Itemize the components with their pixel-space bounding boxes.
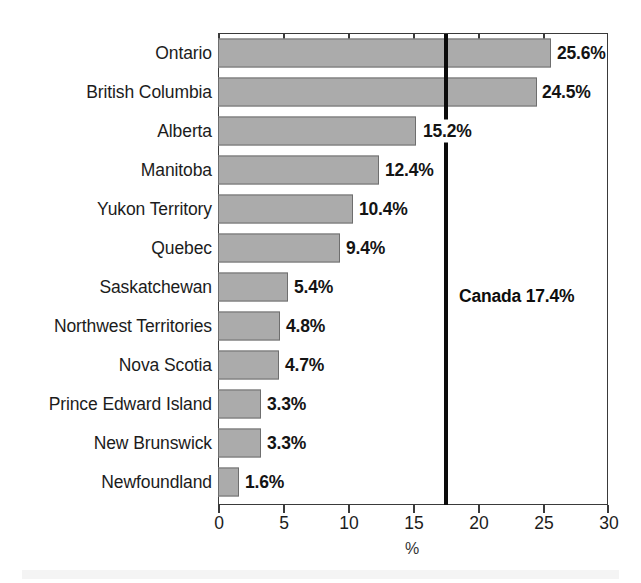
- bar: [218, 116, 416, 145]
- bar: [218, 77, 537, 106]
- bar-value-label: 15.2%: [421, 119, 474, 142]
- bar: [218, 467, 239, 496]
- bar-row: Northwest Territories 4.8%: [0, 306, 641, 345]
- bar: [218, 233, 340, 262]
- category-label: Quebec: [151, 237, 212, 258]
- category-label: Prince Edward Island: [49, 393, 212, 414]
- category-label: Manitoba: [141, 159, 212, 180]
- bar-row: New Brunswick 3.3%: [0, 423, 641, 462]
- category-label: Alberta: [157, 120, 212, 141]
- x-axis-title: %: [405, 540, 419, 558]
- bar-row: Newfoundland 1.6%: [0, 462, 641, 501]
- category-label: Ontario: [155, 42, 212, 63]
- bar-row: Alberta 15.2%: [0, 111, 641, 150]
- bar: [218, 311, 280, 340]
- bar-row: Ontario 25.6%: [0, 33, 641, 72]
- bar-value-label: 25.6%: [557, 42, 606, 63]
- bar-value-label: 12.4%: [385, 159, 434, 180]
- bar-row: British Columbia 24.5%: [0, 72, 641, 111]
- bar-value-label: 9.4%: [346, 237, 385, 258]
- bar-row: Quebec 9.4%: [0, 228, 641, 267]
- category-label: Saskatchewan: [99, 276, 212, 297]
- bar-row: Yukon Territory 10.4%: [0, 189, 641, 228]
- bar-row: Prince Edward Island 3.3%: [0, 384, 641, 423]
- bar-value-label: 4.8%: [286, 315, 325, 336]
- bar: [218, 389, 261, 418]
- page-edge-strip: [22, 570, 619, 579]
- bottom-tick-10: [348, 505, 350, 513]
- category-label: Northwest Territories: [54, 315, 212, 336]
- category-label: British Columbia: [86, 81, 212, 102]
- xtick-label: 0: [214, 513, 224, 534]
- xtick-label: 30: [599, 513, 618, 534]
- bar-value-label: 10.4%: [359, 198, 408, 219]
- bottom-tick-20: [478, 505, 480, 513]
- bar: [218, 38, 551, 67]
- bottom-tick-0: [218, 505, 220, 513]
- category-label: Newfoundland: [101, 471, 212, 492]
- xtick-label: 5: [279, 513, 289, 534]
- xtick-label: 10: [339, 513, 358, 534]
- bottom-tick-5: [283, 505, 285, 513]
- canada-reference-label: Canada 17.4%: [459, 286, 574, 307]
- xtick-label: 20: [469, 513, 488, 534]
- bottom-tick-25: [543, 505, 545, 513]
- bar: [218, 155, 379, 184]
- category-label: Nova Scotia: [119, 354, 212, 375]
- bar: [218, 272, 288, 301]
- bottom-tick-15: [413, 505, 415, 513]
- category-label: New Brunswick: [94, 432, 212, 453]
- bar-value-label: 4.7%: [285, 354, 324, 375]
- bar-row: Nova Scotia 4.7%: [0, 345, 641, 384]
- bar-chart-figure: Ontario 25.6% British Columbia 24.5% Alb…: [0, 0, 641, 583]
- canada-reference-line: [444, 34, 448, 505]
- bar-value-label: 24.5%: [542, 81, 591, 102]
- xtick-label: 15: [404, 513, 423, 534]
- bottom-tick-30: [607, 505, 609, 513]
- bar-value-label: 3.3%: [267, 432, 306, 453]
- bar: [218, 194, 353, 223]
- xtick-label: 25: [534, 513, 553, 534]
- bar-row: Manitoba 12.4%: [0, 150, 641, 189]
- bar-value-label: 1.6%: [245, 471, 284, 492]
- category-label: Yukon Territory: [97, 198, 212, 219]
- bar-value-label: 3.3%: [267, 393, 306, 414]
- bar: [218, 350, 279, 379]
- bar: [218, 428, 261, 457]
- bar-value-label: 5.4%: [294, 276, 333, 297]
